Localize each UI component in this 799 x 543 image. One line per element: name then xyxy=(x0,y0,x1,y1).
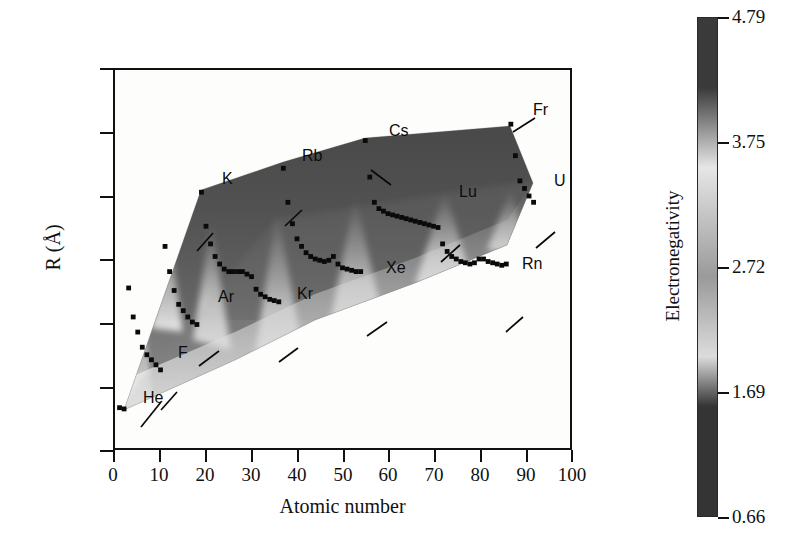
cb-tick-4.79 xyxy=(718,17,729,19)
colorbar-panel: 4.79 3.75 2.72 1.69 0.66 Electronegativi… xyxy=(640,0,799,543)
x-tick-70 xyxy=(434,450,436,462)
data-point xyxy=(331,254,336,259)
data-point xyxy=(158,367,163,372)
figure-canvas: 3.0 2.5 2.0 1.5 1.0 0.5 0.0 0 10 20 30 4… xyxy=(0,0,799,543)
x-tick-label-30: 30 xyxy=(231,464,271,486)
data-point xyxy=(208,241,213,246)
data-point xyxy=(408,218,413,223)
data-point xyxy=(381,209,386,214)
plot-frame xyxy=(113,68,572,450)
data-point xyxy=(235,269,240,274)
data-point xyxy=(122,407,127,412)
annotation-F: F xyxy=(178,344,188,362)
cb-tick-0.66 xyxy=(718,517,729,519)
data-point xyxy=(417,220,422,225)
x-tick-label-0: 0 xyxy=(93,464,133,486)
data-point xyxy=(440,241,445,246)
annotation-U: U xyxy=(554,172,566,190)
annotation-He: He xyxy=(143,389,163,407)
data-point xyxy=(199,190,204,195)
electronegativity-surface xyxy=(115,70,570,448)
annotation-Cs: Cs xyxy=(389,122,409,140)
data-point xyxy=(167,269,172,274)
y-tick-2.0 xyxy=(100,196,113,198)
annotation-Fr: Fr xyxy=(533,101,548,119)
data-point xyxy=(472,260,477,265)
x-tick-label-20: 20 xyxy=(185,464,225,486)
data-point xyxy=(427,223,432,228)
x-tick-50 xyxy=(343,450,345,462)
colorbar-title: Electronegativity xyxy=(662,186,684,326)
plot-area xyxy=(115,70,570,448)
data-point xyxy=(436,225,441,230)
y-tick-2.5 xyxy=(100,132,113,134)
data-point xyxy=(176,302,181,307)
data-point xyxy=(399,215,404,220)
data-point xyxy=(144,352,149,357)
x-tick-label-90: 90 xyxy=(506,464,546,486)
y-tick-1.0 xyxy=(100,323,113,325)
x-tick-label-70: 70 xyxy=(414,464,454,486)
cb-label-1.69: 1.69 xyxy=(732,381,765,403)
data-point xyxy=(349,268,354,273)
data-point xyxy=(276,299,281,304)
x-tick-label-50: 50 xyxy=(323,464,363,486)
data-point xyxy=(372,200,377,205)
data-point xyxy=(386,211,391,216)
data-point xyxy=(313,257,318,262)
x-tick-20 xyxy=(205,450,207,462)
data-point xyxy=(354,269,359,274)
data-point xyxy=(363,138,368,143)
data-point xyxy=(358,269,363,274)
data-point xyxy=(172,288,177,293)
data-point xyxy=(322,259,327,264)
cb-label-2.72: 2.72 xyxy=(732,256,765,278)
data-point xyxy=(513,153,518,158)
annotation-Lu: Lu xyxy=(459,183,477,201)
cb-label-3.75: 3.75 xyxy=(732,131,765,153)
annotation-Rn: Rn xyxy=(522,255,542,273)
data-point xyxy=(258,292,263,297)
data-point xyxy=(240,269,245,274)
cb-label-4.79: 4.79 xyxy=(732,6,765,28)
data-point xyxy=(422,221,427,226)
x-tick-90 xyxy=(526,450,528,462)
data-point xyxy=(195,322,200,327)
main-plot: 3.0 2.5 2.0 1.5 1.0 0.5 0.0 0 10 20 30 4… xyxy=(0,0,640,543)
data-point xyxy=(522,186,527,191)
data-point xyxy=(163,244,168,249)
data-point xyxy=(281,166,286,171)
annotation-Xe: Xe xyxy=(386,259,406,277)
data-point xyxy=(340,265,345,270)
x-tick-30 xyxy=(251,450,253,462)
data-point xyxy=(217,262,222,267)
data-point xyxy=(286,200,291,205)
data-point xyxy=(254,287,259,292)
data-point xyxy=(367,175,372,180)
data-point xyxy=(486,259,491,264)
data-point xyxy=(504,262,509,267)
data-point xyxy=(518,178,523,183)
data-point xyxy=(213,254,218,259)
colorbar-gradient xyxy=(697,17,718,517)
x-tick-label-40: 40 xyxy=(277,464,317,486)
cb-tick-3.75 xyxy=(718,142,729,144)
data-point xyxy=(413,219,418,224)
data-point xyxy=(531,200,536,205)
cb-tick-2.72 xyxy=(718,267,729,269)
y-tick-0.5 xyxy=(100,387,113,389)
data-point xyxy=(468,262,473,267)
data-point xyxy=(495,262,500,267)
data-point xyxy=(477,257,482,262)
x-tick-label-100: 100 xyxy=(552,464,592,486)
data-point xyxy=(481,257,486,262)
data-point xyxy=(508,122,513,127)
data-point xyxy=(272,298,277,303)
data-point xyxy=(149,357,154,362)
data-point xyxy=(181,308,186,313)
data-point xyxy=(445,249,450,254)
x-tick-label-10: 10 xyxy=(139,464,179,486)
y-axis-title: R (Å) xyxy=(42,188,65,308)
data-point xyxy=(345,267,350,272)
data-point xyxy=(126,286,131,291)
